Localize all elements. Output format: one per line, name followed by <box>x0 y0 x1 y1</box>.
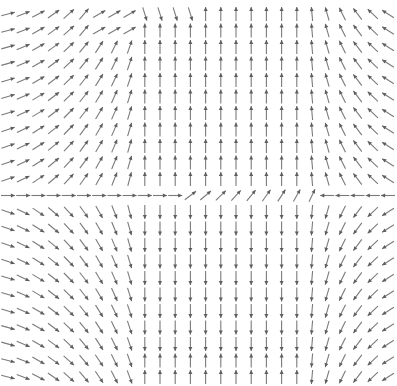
vector-arrow <box>353 256 361 267</box>
vector-arrow <box>264 7 268 21</box>
vector-arrow <box>295 156 299 170</box>
vector-arrow <box>382 258 394 266</box>
vector-arrow <box>249 57 253 71</box>
vector-arrow <box>249 337 253 351</box>
vector-arrow <box>368 273 378 283</box>
vector-arrow <box>188 354 192 368</box>
vector-arrow <box>188 255 192 269</box>
vector-arrow <box>158 139 162 153</box>
vector-arrow <box>95 371 103 383</box>
vector-arrow <box>48 323 59 331</box>
vector-arrow <box>368 257 378 267</box>
vector-arrow <box>143 57 147 71</box>
vector-arrow <box>64 223 74 233</box>
vector-arrow <box>264 255 268 269</box>
vector-arrow <box>96 305 103 317</box>
vector-arrow <box>32 357 44 364</box>
vector-arrow <box>366 194 380 198</box>
vector-arrow <box>368 224 378 234</box>
vector-arrow <box>382 208 394 216</box>
vector-arrow <box>234 7 238 21</box>
vector-arrow <box>325 271 330 284</box>
vector-arrow <box>382 307 394 315</box>
vector-arrow <box>188 123 192 137</box>
vector-arrow <box>249 90 253 104</box>
vector-arrow <box>325 24 330 37</box>
vector-arrow <box>80 42 89 53</box>
vector-arrow <box>32 60 44 67</box>
vector-arrow <box>188 321 192 335</box>
vector-arrow <box>173 222 177 236</box>
vector-field <box>0 0 397 386</box>
vector-arrow <box>112 272 118 285</box>
vector-arrow <box>79 9 88 20</box>
vector-arrow <box>295 337 299 351</box>
vector-arrow <box>158 255 162 269</box>
vector-arrow <box>339 8 345 21</box>
vector-arrow <box>17 341 30 347</box>
vector-arrow <box>295 370 299 384</box>
vector-arrow <box>188 205 192 219</box>
vector-arrow <box>280 222 284 236</box>
vector-arrow <box>219 238 223 252</box>
vector-arrow <box>17 275 30 281</box>
vector-arrow <box>295 321 299 335</box>
vector-arrow <box>280 354 284 368</box>
vector-arrow <box>353 289 361 300</box>
vector-arrow <box>339 90 345 103</box>
vector-arrow <box>80 140 88 151</box>
vector-arrow <box>64 75 74 85</box>
vector-arrow <box>128 106 133 119</box>
vector-arrow <box>310 123 314 137</box>
vector-arrow <box>48 373 59 381</box>
vector-arrow <box>368 26 378 36</box>
vector-arrow <box>158 238 162 252</box>
vector-arrow <box>1 194 15 198</box>
vector-arrow <box>234 271 238 285</box>
vector-arrow <box>368 42 378 52</box>
vector-arrow <box>33 175 45 183</box>
vector-arrow <box>325 321 330 334</box>
vector-arrow <box>264 106 268 120</box>
vector-arrow <box>325 172 330 185</box>
vector-arrow <box>310 304 314 318</box>
vector-arrow <box>295 57 299 71</box>
vector-arrow <box>158 304 162 318</box>
vector-arrow <box>234 238 238 252</box>
vector-arrow <box>48 26 59 34</box>
vector-arrow <box>32 324 44 331</box>
vector-arrow <box>219 172 223 186</box>
vector-arrow <box>1 293 14 298</box>
vector-arrow <box>48 257 59 266</box>
vector-arrow <box>127 304 132 317</box>
vector-arrow <box>17 242 30 248</box>
vector-arrow <box>295 106 299 120</box>
vector-arrow <box>234 73 238 87</box>
vector-arrow <box>368 59 378 69</box>
vector-arrow <box>280 172 284 186</box>
vector-arrow <box>32 374 44 381</box>
vector-arrow <box>33 258 45 265</box>
vector-arrow <box>249 139 253 153</box>
vector-arrow <box>33 241 45 248</box>
vector-arrow <box>80 75 89 86</box>
vector-arrow <box>280 271 284 285</box>
vector-arrow <box>280 156 284 170</box>
vector-arrow <box>368 356 378 366</box>
vector-arrow <box>96 156 103 168</box>
vector-arrow <box>368 290 378 300</box>
vector-arrow <box>17 375 30 380</box>
vector-arrow <box>80 124 88 135</box>
vector-arrow <box>17 44 30 50</box>
vector-arrow <box>48 10 59 18</box>
vector-arrow <box>143 106 147 120</box>
vector-arrow <box>64 174 73 184</box>
vector-arrow <box>204 304 208 318</box>
vector-arrow <box>249 123 253 137</box>
vector-arrow <box>262 190 270 201</box>
vector-arrow <box>112 156 118 169</box>
vector-arrow <box>249 271 253 285</box>
vector-arrow <box>111 371 117 383</box>
vector-arrow <box>111 41 117 54</box>
vector-arrow <box>173 370 177 384</box>
